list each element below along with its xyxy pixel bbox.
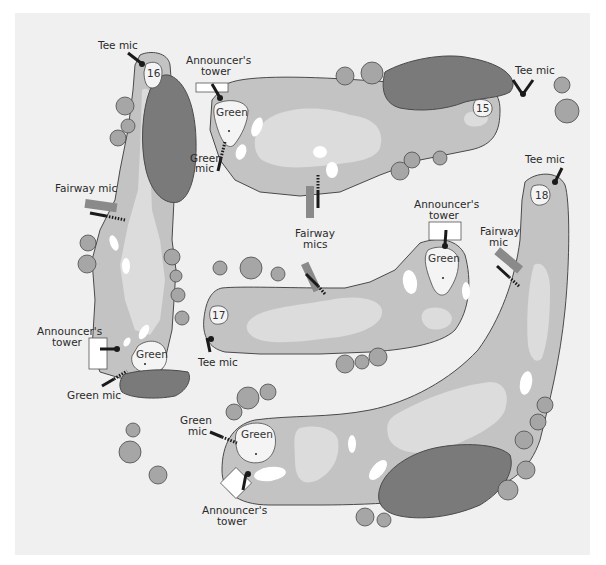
hole-15-green-mic-label-2: mic bbox=[195, 162, 214, 174]
hole-16-water-behind-green bbox=[120, 370, 190, 398]
hole-16-fairway-mic-label: Fairway mic bbox=[55, 182, 117, 194]
hole-15-green-label: Green bbox=[216, 106, 248, 118]
hole-15-tee-mic-label: Tee mic bbox=[514, 64, 555, 76]
hole-15-tower-label-2: tower bbox=[201, 65, 232, 77]
fairway-mic-stand-icon bbox=[306, 186, 314, 218]
hole-18-green-label: Green bbox=[241, 428, 273, 440]
hole-18-tower-label-2: tower bbox=[217, 515, 248, 527]
hole-17-number: 17 bbox=[212, 309, 225, 321]
hole-18-tee-mic-label: Tee mic bbox=[524, 153, 565, 165]
hole-17-fairway-mics-label-2: mics bbox=[303, 238, 327, 250]
hole-16-green-label: Green bbox=[136, 348, 168, 360]
hole-17-green-label: Green bbox=[428, 252, 460, 264]
bunker bbox=[326, 162, 338, 178]
bunker bbox=[122, 258, 130, 274]
hole-17-tower-label-2: tower bbox=[429, 209, 460, 221]
announcer-tower-icon bbox=[89, 338, 107, 369]
hole-18-number: 18 bbox=[535, 189, 548, 201]
hole-18-green-mic-label-2: mic bbox=[188, 425, 207, 437]
golf-course-diagram: 16 Green Tee mic Fairway mic Announcer's… bbox=[0, 0, 606, 565]
hole-16-tower-label-2: tower bbox=[52, 336, 83, 348]
hole-18-fairway-mic-label-2: mic bbox=[489, 236, 508, 248]
bunker bbox=[462, 282, 470, 300]
hole-17-tee-mic-label: Tee mic bbox=[197, 356, 238, 368]
hole-15-number: 15 bbox=[476, 102, 489, 114]
hole-16-tee-mic-label: Tee mic bbox=[97, 39, 138, 51]
hole-16-green-mic-label: Green mic bbox=[67, 389, 121, 401]
bunker bbox=[313, 146, 327, 158]
bunker bbox=[348, 435, 356, 453]
hole-16-number: 16 bbox=[147, 67, 161, 79]
